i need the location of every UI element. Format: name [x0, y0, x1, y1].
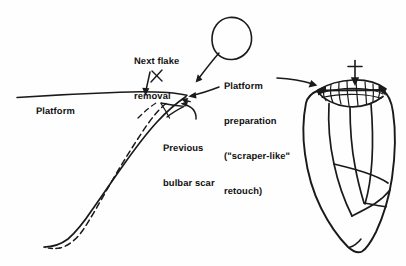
previous-scar-curved-arrow [181, 101, 196, 119]
label-platform-line-1: Platform [36, 105, 75, 117]
label-next-flake-removal: Next flake removal [134, 32, 179, 125]
label-platform: Platform [36, 82, 75, 140]
lithic-diagram: Platform Next flake removal Platform pre… [0, 0, 406, 266]
label-platform-preparation-line-3: ("scraper-like" [224, 150, 290, 162]
label-platform-preparation-line-4: retouch) [224, 185, 290, 197]
label-previous-bulbar-scar-line-1: Previous [163, 142, 215, 154]
core-retouch-zone [317, 80, 386, 107]
label-next-flake-removal-line-1: Next flake [134, 55, 179, 67]
platform-edge-arrow [188, 87, 219, 98]
core-flake-scar-ridges [329, 104, 390, 248]
flake-leader-arrow [196, 53, 219, 83]
label-previous-bulbar-scar: Previous bulbar scar [163, 119, 215, 212]
label-platform-preparation-line-2: preparation [224, 115, 290, 127]
core-outline [303, 90, 394, 252]
label-next-flake-removal-line-2: removal [134, 90, 179, 102]
previous-bulbar-scar-dashed-curve [60, 104, 166, 249]
label-platform-preparation: Platform preparation ("scraper-like" ret… [224, 57, 290, 219]
label-platform-preparation-line-1: Platform [224, 80, 290, 92]
hammer-blow-arrow [348, 61, 362, 87]
label-previous-bulbar-scar-line-2: bulbar scar [163, 177, 215, 189]
